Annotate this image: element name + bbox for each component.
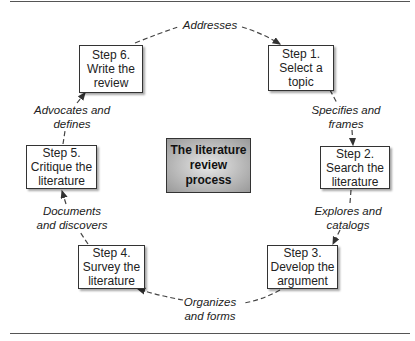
step-1-line3: topic <box>288 75 313 89</box>
label-line1: Documents <box>32 204 112 218</box>
step-4-line2: Survey the <box>83 260 140 274</box>
step-4-title: Step 4. <box>92 246 130 260</box>
label-documents-discovers: Documents and discovers <box>32 204 112 232</box>
label-line1: Organizes <box>180 295 240 309</box>
step-6-line2: Write the <box>87 62 135 76</box>
step-6-title: Step 6. <box>92 48 130 62</box>
step-5-box: Step 5. Critique the literature <box>26 145 97 189</box>
step-5-line2: Critique the <box>31 160 92 174</box>
step-5-line3: literature <box>38 174 85 188</box>
step-3-title: Step 3. <box>283 246 321 260</box>
label-line1: Explores and <box>312 204 384 218</box>
step-3-line3: argument <box>277 274 328 288</box>
label-addresses: Addresses <box>180 18 240 32</box>
label-advocates-defines: Advocates and defines <box>34 103 110 131</box>
label-line1: Advocates and <box>34 103 110 117</box>
label-line2: frames <box>310 117 382 131</box>
step-3-line2: Develop the <box>270 260 334 274</box>
step-3-box: Step 3. Develop the argument <box>267 245 338 289</box>
label-line2: and discovers <box>32 218 112 232</box>
step-2-line3: literature <box>332 175 379 189</box>
center-line2: review process <box>167 158 250 188</box>
step-4-box: Step 4. Survey the literature <box>78 245 145 289</box>
label-specifies-frames: Specifies and frames <box>310 103 382 131</box>
label-organizes-forms: Organizes and forms <box>180 295 240 323</box>
step-1-box: Step 1. Select a topic <box>268 45 334 91</box>
step-5-title: Step 5. <box>42 146 80 160</box>
step-1-line2: Select a <box>279 61 322 75</box>
center-title-box: The literature review process <box>166 138 251 193</box>
center-line1: The literature <box>170 143 246 158</box>
label-line2: defines <box>34 117 110 131</box>
step-4-line3: literature <box>88 274 135 288</box>
label-line2: and forms <box>180 309 240 323</box>
step-6-box: Step 6. Write the review <box>79 45 143 93</box>
step-6-line3: review <box>94 76 129 90</box>
label-explores-catalogs: Explores and catalogs <box>312 204 384 232</box>
label-line1: Specifies and <box>310 103 382 117</box>
label-addresses-text: Addresses <box>183 19 237 31</box>
step-2-line2: Search the <box>326 161 384 175</box>
step-2-title: Step 2. <box>336 147 374 161</box>
step-2-box: Step 2. Search the literature <box>320 146 390 189</box>
label-line2: catalogs <box>312 218 384 232</box>
step-1-title: Step 1. <box>282 47 320 61</box>
